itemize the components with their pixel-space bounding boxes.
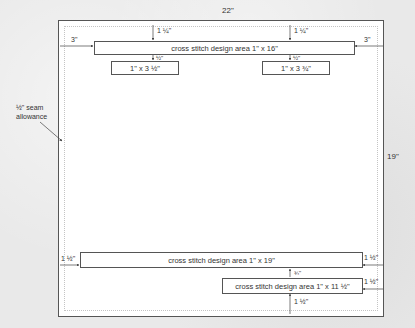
small-left-design-label: 1" x 3 ½" [130, 64, 160, 73]
top-offset-left-label: 1 ¼" [157, 27, 171, 34]
small-right-design-box: 1" x 3 ¾" [262, 61, 330, 75]
top-design-area-label: cross stitch design area 1" x 16" [171, 44, 278, 53]
bottom-small-design-label: cross stitch design area 1" x 11 ½" [235, 282, 349, 291]
bottom-small-right-offset-label: 1 ½" [364, 278, 378, 285]
bottom-gap-label: ¾" [294, 270, 301, 276]
small-right-design-label: 1" x 3 ¾" [281, 64, 311, 73]
top-right-offset-label: 3" [364, 36, 370, 43]
bottom-offset-label: 1 ½" [294, 298, 308, 305]
bottom-design-area-label: cross stitch design area 1" x 19" [168, 256, 275, 265]
top-design-area-box: cross stitch design area 1" x 16" [94, 41, 355, 55]
bottom-small-design-box: cross stitch design area 1" x 11 ½" [222, 278, 363, 294]
small-left-design-box: 1" x 3 ½" [111, 61, 179, 75]
bottom-design-area-box: cross stitch design area 1" x 19" [80, 252, 363, 268]
bottom-right-offset-label: 1 ½" [364, 254, 378, 261]
top-offset-right-label: 1 ¼" [294, 27, 308, 34]
top-left-offset-label: 3" [71, 36, 77, 43]
bottom-left-offset-label: 1 ½" [61, 255, 75, 262]
